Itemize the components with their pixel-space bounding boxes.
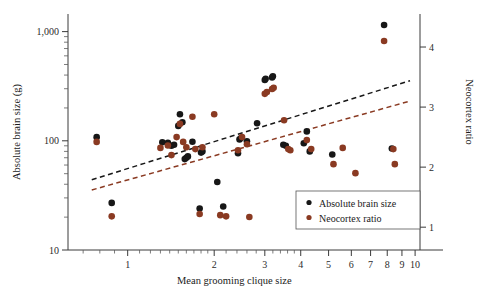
- data-point: [392, 161, 399, 168]
- x-axis-tick-label: 7: [368, 259, 373, 270]
- data-point: [281, 117, 288, 124]
- legend-item-label: Neocortex ratio: [319, 213, 381, 224]
- data-point: [220, 203, 227, 210]
- x-axis-tick-label: 4: [298, 259, 303, 270]
- data-point: [244, 141, 251, 148]
- y2-axis-title: Neocortex ratio: [464, 79, 475, 145]
- x-axis-tick-label: 10: [410, 259, 420, 270]
- right-axis-tick-label: 2: [429, 162, 434, 173]
- legend-marker-icon: [306, 200, 311, 205]
- data-point: [246, 214, 253, 221]
- data-point: [177, 121, 184, 128]
- x-axis-tick-label: 9: [399, 259, 404, 270]
- data-point: [381, 22, 388, 29]
- data-point: [157, 145, 164, 152]
- data-point: [235, 147, 242, 154]
- left-axis-tick-label: 10: [49, 245, 59, 256]
- data-point: [168, 152, 175, 159]
- data-point: [239, 134, 246, 141]
- data-point: [185, 153, 192, 160]
- data-point: [223, 213, 230, 220]
- right-axis-tick-label: 3: [429, 102, 434, 113]
- data-point: [192, 146, 199, 153]
- data-point: [329, 151, 336, 158]
- data-point: [262, 75, 269, 82]
- x-axis-tick-label: 2: [212, 259, 217, 270]
- x-axis-tick-label: 1: [125, 259, 130, 270]
- data-point: [199, 144, 206, 151]
- data-point: [189, 113, 196, 120]
- data-point: [196, 211, 203, 218]
- data-point: [330, 161, 337, 168]
- x-axis-title: Mean grooming clique size: [177, 275, 292, 286]
- data-point: [171, 141, 178, 148]
- y-axis-title: Absolute brain size (g): [11, 84, 23, 180]
- data-point: [339, 145, 346, 152]
- plot-background: [0, 0, 482, 288]
- data-point: [304, 128, 311, 135]
- data-point: [173, 134, 180, 141]
- legend-marker-icon: [306, 215, 311, 220]
- data-point: [108, 200, 115, 207]
- data-point: [390, 146, 397, 153]
- data-point: [214, 179, 221, 186]
- data-point: [108, 213, 115, 220]
- data-point: [308, 146, 315, 153]
- chart-figure: 101001,000 1234 12345678910 Mean groomin…: [0, 0, 482, 288]
- data-point: [304, 137, 311, 144]
- x-axis-tick-label: 8: [385, 259, 390, 270]
- x-axis-tick-label: 6: [349, 259, 354, 270]
- data-point: [177, 111, 184, 118]
- data-point: [211, 111, 218, 118]
- right-axis-tick-label: 4: [429, 42, 434, 53]
- scatter-plot-svg: 101001,000 1234 12345678910 Mean groomin…: [0, 0, 482, 288]
- data-point: [352, 170, 359, 177]
- left-axis-tick-label: 100: [44, 135, 59, 146]
- data-point: [93, 139, 100, 146]
- legend-item-label: Absolute brain size: [319, 198, 397, 209]
- data-point: [270, 85, 277, 92]
- data-point: [287, 147, 294, 154]
- right-axis-tick-label: 1: [429, 222, 434, 233]
- data-point: [381, 38, 388, 45]
- left-axis-tick-label: 1,000: [37, 26, 60, 37]
- data-point: [270, 73, 277, 80]
- data-point: [189, 138, 196, 145]
- x-axis-tick-label: 5: [326, 259, 331, 270]
- data-point: [165, 142, 172, 149]
- data-point: [254, 120, 261, 127]
- x-axis-tick-label: 3: [262, 259, 267, 270]
- data-point: [217, 212, 224, 219]
- chart-legend: Absolute brain sizeNeocortex ratio: [296, 191, 420, 229]
- data-point: [183, 144, 190, 151]
